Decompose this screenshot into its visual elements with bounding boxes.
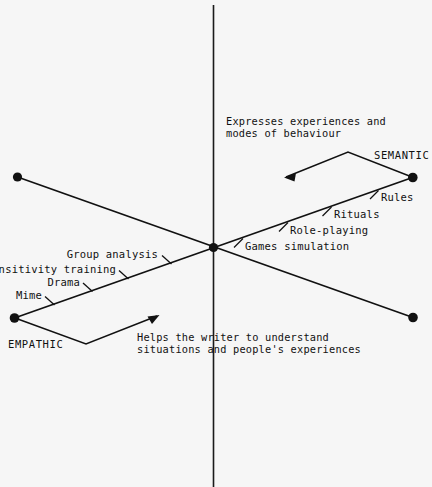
empathic-caption-line-1: Helps the writer to understand [137,331,329,343]
empathic-caption-line-2: situations and people's experiences [137,343,361,355]
semantic-callout-arrowhead [284,173,296,182]
tick-mime [45,297,55,306]
lower-right-endpoint-dot [408,313,418,323]
diagram-canvas: SEMANTIC EMPATHIC Expresses experiences … [0,0,432,487]
semantic-caption-line-1: Expresses experiences and [226,115,386,127]
tick-group-analysis [162,256,172,265]
tick-drama [83,283,93,292]
item-label-role-playing: Role-playing [290,224,368,236]
empathic-callout-arrowhead [148,315,160,324]
item-label-sensitivity-training: Sensitivity training [0,263,116,275]
item-label-group-analysis: Group analysis [67,248,158,260]
semantic-caption-line-2: modes of behaviour [226,127,341,139]
item-label-rules: Rules [381,191,414,203]
semantic-pole-label: SEMANTIC [374,149,429,161]
upper-left-endpoint-dot [13,172,22,181]
semantic-endpoint-dot [408,173,418,183]
item-label-mime: Mime [16,289,42,301]
empathic-pole-label: EMPATHIC [8,338,63,350]
spectrum-diagram: SEMANTIC EMPATHIC Expresses experiences … [0,0,432,487]
empathic-endpoint-dot [10,313,20,323]
center-intersection-dot [209,243,218,252]
item-label-drama: Drama [47,276,80,288]
item-label-games-simulation: Games simulation [245,240,349,252]
item-label-rituals: Rituals [334,208,380,220]
tick-sensitivity-training [119,271,129,280]
